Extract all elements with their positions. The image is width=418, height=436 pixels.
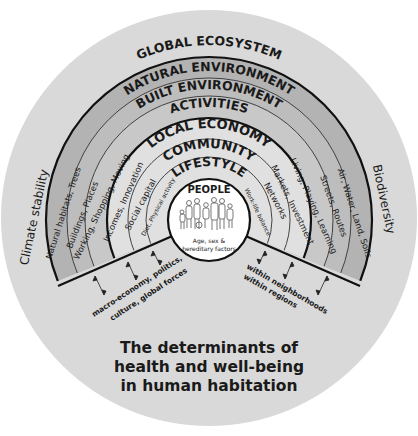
title-line-3: in human habitation (0, 377, 418, 396)
people-sub-line-2: hereditary factors (182, 245, 236, 253)
title-line-2: health and well-being (0, 358, 418, 377)
people-sub-line-1: Age, sex & (193, 237, 226, 245)
diagram-title: The determinants of health and well-bein… (0, 339, 418, 396)
people-label: PEOPLE (187, 184, 230, 195)
health-determinants-diagram: GLOBAL ECOSYSTEM NATURAL ENVIRONMENT BUI… (0, 0, 418, 436)
title-line-1: The determinants of (0, 339, 418, 358)
